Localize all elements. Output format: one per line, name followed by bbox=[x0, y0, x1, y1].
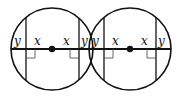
label-x: x bbox=[34, 34, 41, 48]
two-circles-diagram: y x x y y x x y bbox=[0, 0, 181, 97]
center-dot-2 bbox=[127, 46, 133, 52]
label-y: y bbox=[157, 34, 165, 48]
label-y: y bbox=[80, 34, 88, 48]
label-x: x bbox=[112, 34, 119, 48]
right-angle-markers bbox=[26, 49, 156, 58]
label-x: x bbox=[63, 34, 70, 48]
center-dot-1 bbox=[49, 46, 55, 52]
label-y: y bbox=[91, 34, 99, 48]
label-y: y bbox=[13, 34, 21, 48]
label-x: x bbox=[141, 34, 148, 48]
